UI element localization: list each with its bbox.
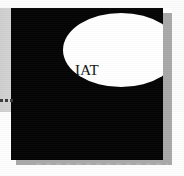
left-margin-tick-marks (0, 98, 16, 103)
paper-top-margin (0, 0, 184, 8)
dashed-baseline-rule (36, 163, 168, 165)
screenshot-canvas: IAT (0, 0, 184, 176)
tick-mark-icon (10, 99, 13, 102)
black-figure-panel: IAT (11, 8, 163, 160)
tick-mark-icon (5, 99, 8, 102)
tick-mark-icon (0, 99, 3, 102)
figure-caption-text: IAT (75, 63, 99, 78)
